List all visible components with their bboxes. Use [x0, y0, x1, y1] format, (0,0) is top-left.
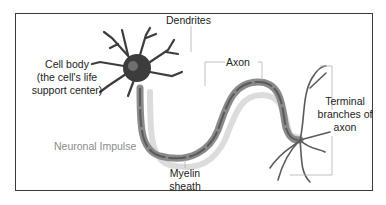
myelin-line2: sheath — [165, 180, 205, 193]
label-terminal-branches: Terminal branches of axon — [313, 95, 377, 134]
cell-body-line3: support center) — [25, 84, 109, 97]
terminal-line1: Terminal — [313, 95, 377, 108]
myelin-line1: Myelin — [165, 167, 205, 180]
leader-lines — [185, 26, 332, 175]
cell-body-line2: (the cell's life — [25, 71, 109, 84]
label-dendrites: Dendrites — [166, 14, 211, 27]
label-axon: Axon — [226, 56, 250, 69]
label-cell-body: Cell body (the cell's life support cente… — [25, 58, 109, 97]
cell-body-line1: Cell body — [25, 58, 109, 71]
label-neuronal-impulse: Neuronal Impulse — [54, 140, 136, 153]
label-myelin-sheath: Myelin sheath — [165, 167, 205, 193]
terminal-line3: axon — [313, 121, 377, 134]
terminal-line2: branches of — [313, 108, 377, 121]
